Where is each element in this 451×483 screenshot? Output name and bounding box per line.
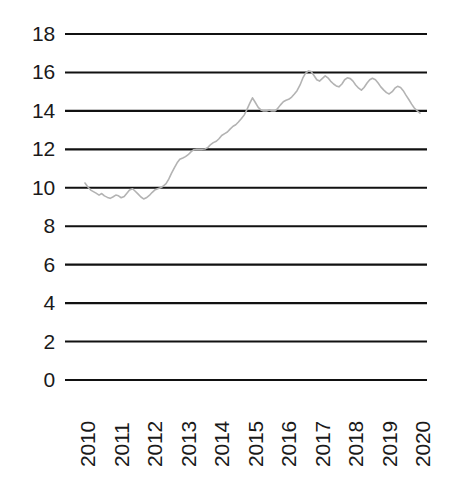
x-tick-label-2016: 2016 [277, 421, 301, 467]
x-axis-tick-labels: 2010201120122013201420152016201720182019… [0, 0, 451, 483]
x-tick-label-2010: 2010 [76, 421, 100, 467]
x-tick-label-2015: 2015 [244, 421, 268, 467]
x-tick-label-2012: 2012 [143, 421, 167, 467]
x-tick-label-2018: 2018 [344, 421, 368, 467]
x-tick-label-2017: 2017 [311, 421, 335, 467]
x-tick-label-2019: 2019 [378, 421, 402, 467]
line-chart: 181614121086420 201020112012201320142015… [0, 0, 451, 483]
x-tick-label-2014: 2014 [210, 421, 234, 467]
x-tick-label-2020: 2020 [411, 421, 435, 467]
x-tick-label-2013: 2013 [177, 421, 201, 467]
x-tick-label-2011: 2011 [110, 423, 134, 467]
